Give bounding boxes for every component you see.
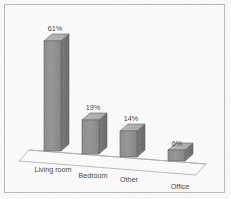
chart-container: 61%19%14%6% Living roomBedroomOtherOffic… [0, 0, 231, 199]
paper-texture-overlay [0, 0, 231, 199]
bar-chart-3d: 61%19%14%6% Living roomBedroomOtherOffic… [0, 0, 231, 199]
